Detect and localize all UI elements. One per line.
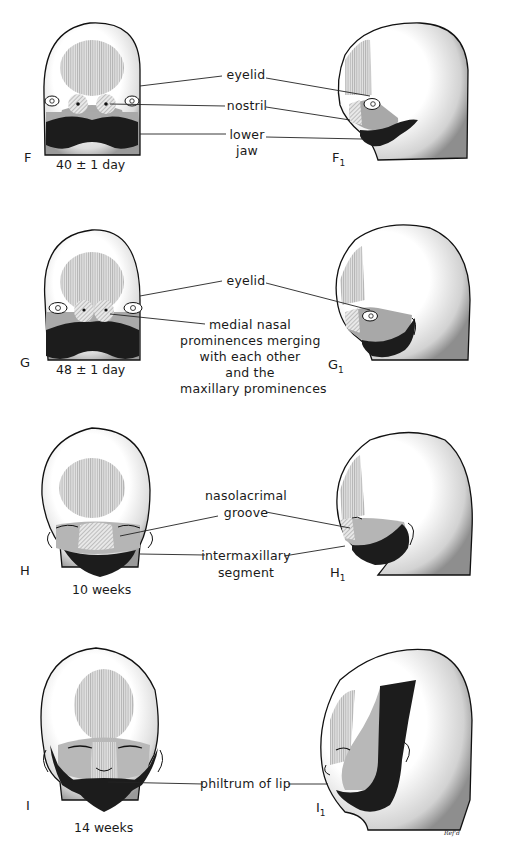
- panel-label-i1: I1: [316, 800, 326, 818]
- label-medial-nasal-line5: maxillary prominences: [180, 382, 320, 396]
- label-eyelid-f: eyelid: [224, 68, 268, 82]
- label-intermaxillary-line2: segment: [196, 566, 296, 580]
- label-medial-nasal-line3: with each other: [180, 350, 320, 364]
- panel-label-i: I: [26, 798, 30, 813]
- label-lower-jaw-line2: jaw: [226, 144, 268, 158]
- panel-label-h: H: [20, 563, 30, 578]
- panel-f-lateral: [338, 23, 468, 160]
- panel-h-lateral: [337, 433, 472, 576]
- panel-label-f: F: [24, 150, 31, 165]
- label-philtrum-of-lip: philtrum of lip: [200, 777, 290, 791]
- label-nasolacrimal-line1: nasolacrimal: [196, 489, 296, 503]
- label-intermaxillary-line1: intermaxillary: [196, 549, 296, 563]
- panel-g-lateral: [336, 225, 470, 360]
- label-eyelid-g: eyelid: [224, 274, 268, 288]
- panel-h-frontal: [42, 428, 153, 577]
- label-lower-jaw-line1: lower: [226, 128, 268, 142]
- age-label-h: 10 weeks: [72, 582, 131, 597]
- panel-label-g1: G1: [328, 357, 344, 375]
- embryo-face-diagram: F F1 G G1 H H1 I I1 40 ± 1 day 48 ± 1 da…: [0, 0, 513, 843]
- panel-label-g: G: [20, 355, 30, 370]
- label-medial-nasal-line1: medial nasal: [180, 318, 320, 332]
- label-medial-nasal-line2: prominences merging: [180, 334, 320, 348]
- panel-g-frontal: [45, 230, 142, 360]
- age-label-i: 14 weeks: [74, 820, 133, 835]
- artist-signature: Ref'd: [444, 829, 460, 836]
- label-nasolacrimal-line2: groove: [196, 506, 296, 520]
- label-medial-nasal-line4: and the: [180, 366, 320, 380]
- panel-f-frontal: [44, 23, 140, 155]
- panel-label-f1: F1: [332, 150, 345, 168]
- age-label-f: 40 ± 1 day: [56, 157, 125, 172]
- label-nostril: nostril: [226, 99, 268, 113]
- age-label-g: 48 ± 1 day: [56, 362, 125, 377]
- panel-label-h1: H1: [330, 565, 346, 583]
- panel-i-lateral: [321, 649, 472, 830]
- panel-i-frontal: [41, 648, 163, 812]
